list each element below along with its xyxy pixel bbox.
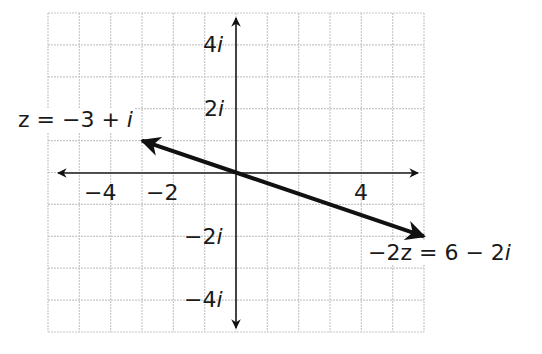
vector-z-label-text: z = −3 + xyxy=(18,107,127,132)
complex-plane xyxy=(0,0,542,354)
vector-z-label: z = −3 + i xyxy=(16,108,135,132)
imaginary-unit: i xyxy=(127,107,133,132)
y-tick-neg2i-text: −2i xyxy=(184,224,223,249)
y-tick-4i-text: 4i xyxy=(203,32,223,57)
vector-z xyxy=(142,141,236,173)
imaginary-unit: i xyxy=(216,287,222,312)
y-tick-neg4i: −4i xyxy=(184,288,223,312)
imaginary-unit: i xyxy=(216,224,222,249)
vector-neg2z-label: −2z = 6 − 2i xyxy=(366,241,513,265)
imaginary-unit: i xyxy=(218,96,224,121)
imaginary-unit: i xyxy=(505,240,511,265)
vectors xyxy=(142,141,424,237)
vector-neg2z-label-text: −2z = 6 − 2 xyxy=(368,240,505,265)
y-tick-4i: 4i xyxy=(203,33,223,57)
y-tick-2i: 2i xyxy=(204,97,224,121)
x-tick-4: 4 xyxy=(354,181,368,205)
y-tick-2i-text: 2i xyxy=(204,96,224,121)
imaginary-unit: i xyxy=(217,32,223,57)
x-tick-neg4: −4 xyxy=(84,181,116,205)
y-tick-neg2i: −2i xyxy=(184,225,223,249)
x-tick-neg2: −2 xyxy=(146,181,178,205)
y-tick-neg4i-text: −4i xyxy=(184,287,223,312)
